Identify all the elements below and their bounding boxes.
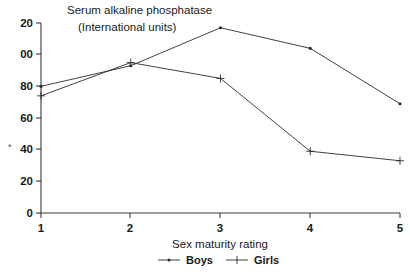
y-axis-labels: 20 00 80 60 40 20 0 xyxy=(20,17,33,219)
data-point-girls-5 xyxy=(396,157,404,165)
y-label-120: 20 xyxy=(20,17,33,29)
x-label-5: 5 xyxy=(397,222,404,234)
x-axis-ticks xyxy=(41,213,400,218)
y-label-20: 20 xyxy=(20,175,33,187)
data-point-boys-1 xyxy=(39,85,42,88)
series-line-boys xyxy=(41,28,400,104)
data-point-girls-1 xyxy=(37,92,45,100)
x-axis-labels: 1 2 3 4 5 xyxy=(38,222,404,234)
x-label-3: 3 xyxy=(217,222,223,234)
x-label-4: 4 xyxy=(307,222,314,234)
series-boys xyxy=(39,26,401,105)
stray-asterisk-mark: * xyxy=(8,142,12,152)
y-label-60: 60 xyxy=(20,112,33,124)
y-label-40: 40 xyxy=(20,143,33,155)
data-point-girls-2 xyxy=(127,59,135,67)
data-point-boys-3 xyxy=(219,26,222,29)
chart-container: Serum alkaline phosphatase (Internationa… xyxy=(0,0,410,272)
chart-subtitle: (International units) xyxy=(78,21,177,33)
y-label-0: 0 xyxy=(27,207,33,219)
legend-swatch-boys-dot xyxy=(168,259,171,262)
x-label-2: 2 xyxy=(127,222,133,234)
series-layer xyxy=(37,26,404,165)
x-label-1: 1 xyxy=(38,222,45,234)
y-axis-ticks xyxy=(36,23,41,213)
y-label-80: 80 xyxy=(20,80,33,92)
data-point-boys-5 xyxy=(398,102,401,105)
chart-title: Serum alkaline phosphatase xyxy=(67,4,212,16)
line-chart: Serum alkaline phosphatase (Internationa… xyxy=(0,0,410,272)
x-axis-title: Sex maturity rating xyxy=(172,238,268,250)
chart-legend: Boys Girls xyxy=(158,254,279,266)
y-label-100: 00 xyxy=(20,48,33,60)
legend-label-boys: Boys xyxy=(186,254,213,266)
data-point-boys-4 xyxy=(309,47,312,50)
legend-label-girls: Girls xyxy=(254,254,279,266)
